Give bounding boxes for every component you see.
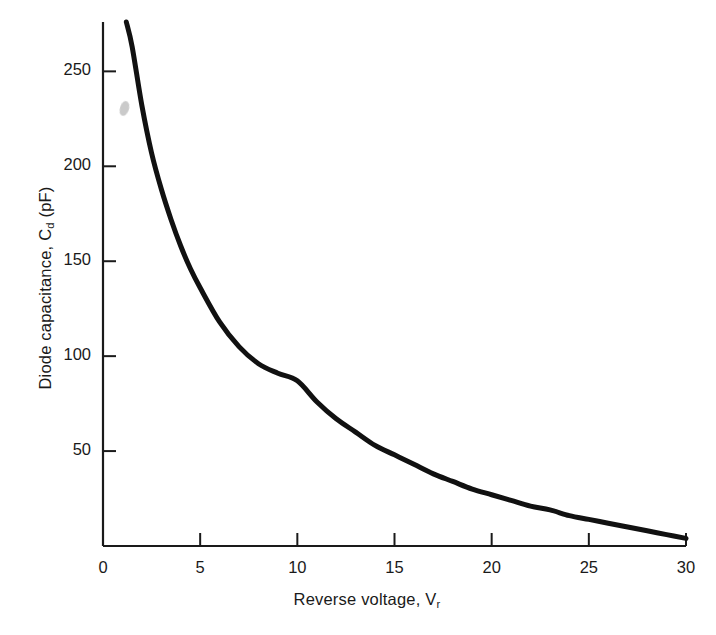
axis-lines <box>103 22 686 546</box>
y-axis-title-wrapper: Diode capacitance, Cd (pF) <box>36 28 60 548</box>
y-axis-ticks <box>103 71 116 451</box>
x-axis-tick-label: 30 <box>666 558 706 577</box>
x-axis-title: Reverse voltage, Vr <box>0 590 716 609</box>
x-axis-title-subscript: r <box>437 598 441 610</box>
x-axis-title-text: Reverse voltage, V <box>294 590 437 608</box>
x-axis-tick-label: 25 <box>569 558 609 577</box>
chart-plot-area <box>0 0 716 635</box>
x-axis-ticks <box>200 533 686 546</box>
x-axis-tick-label: 0 <box>83 558 123 577</box>
x-axis-tick-label: 5 <box>180 558 220 577</box>
y-axis-title-subscript: d <box>44 222 56 228</box>
chart-figure: 050100150200250 051015202530 Diode capac… <box>0 0 716 635</box>
x-axis-tick-label: 15 <box>375 558 415 577</box>
x-axis-tick-label: 20 <box>472 558 512 577</box>
y-axis-title-units: (pF) <box>36 186 54 222</box>
capacitance-curve <box>126 22 686 538</box>
y-axis-title-text: Diode capacitance, C <box>36 229 54 390</box>
y-axis-title: Diode capacitance, Cd (pF) <box>36 186 55 389</box>
x-axis-tick-label: 10 <box>277 558 317 577</box>
